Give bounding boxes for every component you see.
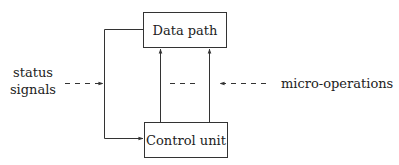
status-signal-path	[105, 30, 144, 139]
control-datapath-diagram: Data path Control unit status signals mi…	[0, 0, 399, 165]
data-path-label: Data path	[153, 23, 219, 38]
control-unit-block: Control unit	[145, 123, 228, 158]
status-label-line1: status	[13, 65, 53, 80]
data-path-block: Data path	[144, 13, 227, 48]
micro-operations-label: micro-operations	[281, 76, 393, 91]
status-label-line2: signals	[10, 82, 56, 97]
control-unit-label: Control unit	[146, 133, 227, 148]
